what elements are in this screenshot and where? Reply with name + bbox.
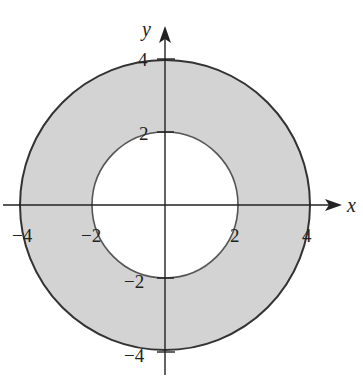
x-tick-label-4: 4 <box>302 225 312 246</box>
y-tick-label-neg4: −4 <box>124 345 145 366</box>
x-tick-label-neg2: −2 <box>81 225 101 246</box>
x-axis-label: x <box>346 194 356 216</box>
x-tick-label-neg4: −4 <box>12 225 33 246</box>
y-tick-label-4: 4 <box>138 49 148 70</box>
y-axis-label: y <box>140 18 151 41</box>
annulus-diagram: y x −4 −2 2 4 4 2 −2 −4 <box>0 0 363 383</box>
x-tick-label-2: 2 <box>230 225 240 246</box>
y-tick-label-2: 2 <box>139 123 149 144</box>
y-tick-label-neg2: −2 <box>124 271 144 292</box>
